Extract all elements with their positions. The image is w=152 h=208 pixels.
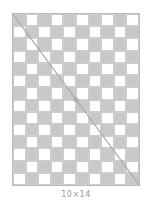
dimension-caption: 10×14 (0, 190, 152, 199)
diagonal-line (12, 13, 140, 186)
